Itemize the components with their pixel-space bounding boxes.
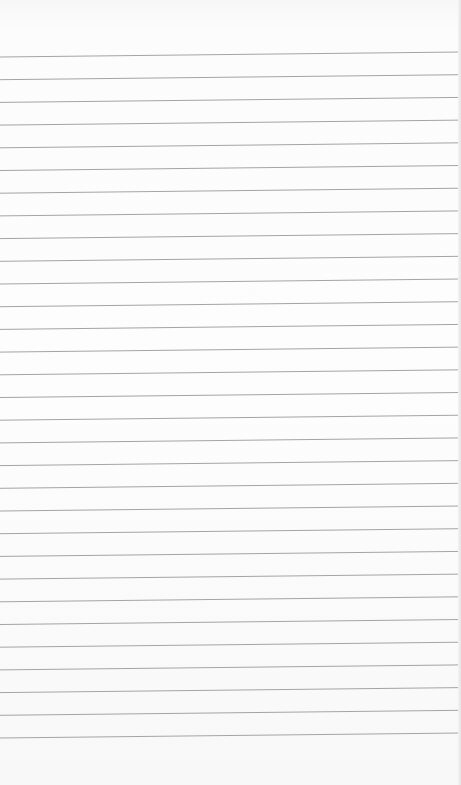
ruled-line (0, 324, 461, 329)
ruled-line (0, 347, 461, 352)
ruled-line (0, 166, 461, 171)
ruled-line (0, 75, 461, 80)
ruled-line (0, 665, 461, 670)
ruled-line (0, 279, 461, 284)
ruled-line (0, 415, 461, 420)
ruled-line (0, 188, 461, 193)
ruled-line (0, 120, 461, 125)
ruled-line (0, 574, 461, 579)
ruled-line (0, 688, 461, 693)
ruled-line (0, 256, 461, 261)
lined-paper (0, 0, 461, 785)
ruled-line (0, 733, 461, 738)
ruled-line (0, 483, 461, 488)
ruled-line (0, 370, 461, 375)
ruled-line (0, 551, 461, 556)
ruled-line (0, 234, 461, 239)
ruled-line (0, 211, 461, 216)
ruled-line (0, 506, 461, 511)
ruled-lines (0, 0, 461, 785)
ruled-line (0, 302, 461, 307)
ruled-line (0, 97, 461, 102)
ruled-line (0, 710, 461, 715)
ruled-line (0, 143, 461, 148)
ruled-line (0, 597, 461, 602)
ruled-line (0, 642, 461, 647)
ruled-line (0, 438, 461, 443)
ruled-line (0, 52, 461, 57)
ruled-line (0, 620, 461, 625)
ruled-line (0, 393, 461, 398)
ruled-line (0, 461, 461, 466)
ruled-line (0, 529, 461, 534)
